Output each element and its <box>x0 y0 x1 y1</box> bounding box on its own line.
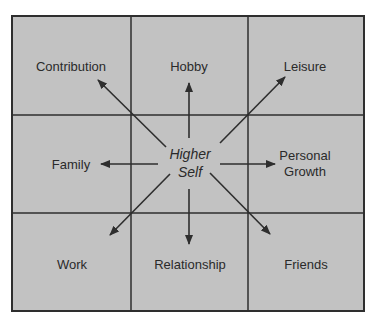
label-work: Work <box>57 257 87 272</box>
center-label-self: Self <box>178 164 202 181</box>
label-personal: Personal <box>279 148 330 163</box>
label-hobby: Hobby <box>170 59 208 74</box>
label-contribution: Contribution <box>36 59 106 74</box>
label-friends: Friends <box>284 257 327 272</box>
label-family: Family <box>52 157 90 172</box>
label-relationship: Relationship <box>154 257 226 272</box>
label-growth: Growth <box>284 164 326 179</box>
label-leisure: Leisure <box>284 59 327 74</box>
center-label-higher: Higher <box>169 146 210 163</box>
